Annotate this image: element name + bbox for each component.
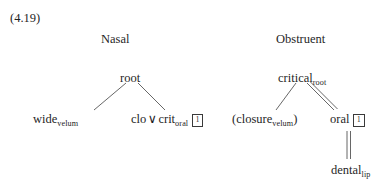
tree-header-nasal: Nasal xyxy=(101,33,129,46)
node-nasal-root-label: root xyxy=(120,71,140,85)
branch-obstruent-root-to-closure xyxy=(276,83,296,110)
node-clo-or-crit-oral: clo∨critoral1 xyxy=(131,113,203,128)
node-critical-root: criticalroot xyxy=(278,72,326,85)
node-closure-velum-label: closure xyxy=(236,112,272,126)
node-critical-root-label: critical xyxy=(278,71,313,85)
paren-close-closure: ) xyxy=(293,112,297,126)
node-wide-velum-label: wide xyxy=(33,112,57,126)
node-wide-velum: widevelum xyxy=(33,113,78,126)
node-crit-label: crit xyxy=(158,112,175,126)
node-nasal-root: root xyxy=(120,72,140,85)
node-oral: oral1 xyxy=(330,113,365,128)
example-number: (4.19) xyxy=(10,12,40,25)
disjunction-operator-icon: ∨ xyxy=(146,112,158,126)
node-wide-velum-subscript: velum xyxy=(57,119,78,128)
node-dental-lip: dentallip xyxy=(331,164,371,177)
node-critical-root-subscript: root xyxy=(313,78,327,87)
figure-canvas: (4.19) Nasal root widevelum clo∨critoral… xyxy=(0,0,389,190)
branch-obstruent-root-to-oral-a xyxy=(307,83,334,110)
node-closure-velum-subscript: velum xyxy=(272,119,293,128)
node-dental-lip-subscript: lip xyxy=(362,170,371,179)
tree-header-obstruent: Obstruent xyxy=(276,33,325,46)
tree-branch-lines xyxy=(0,0,389,190)
index-box-obstruent-oral: 1 xyxy=(353,114,365,127)
node-closure-velum: (closurevelum) xyxy=(232,113,297,126)
node-clo-label: clo xyxy=(131,112,146,126)
branch-nasal-root-to-clocrit xyxy=(138,83,165,110)
index-box-nasal-crit: 1 xyxy=(192,114,204,127)
node-dental-lip-label: dental xyxy=(331,163,362,177)
node-oral-label: oral xyxy=(330,112,349,126)
branch-nasal-root-to-wide xyxy=(94,83,126,110)
node-crit-subscript: oral xyxy=(175,119,188,128)
